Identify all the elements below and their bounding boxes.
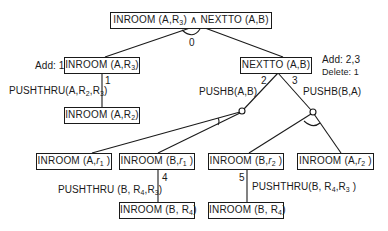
operator-pushb-b-a: PUSHB(B,A)	[303, 86, 361, 98]
node-label: INROOM (B,	[121, 155, 180, 166]
op-text: PUSHTHRU(A,R	[9, 85, 86, 96]
node-label: INROOM (A,R	[65, 109, 131, 120]
edge-number-3: 3	[292, 76, 298, 86]
node-label: INROOM (B, R	[120, 204, 189, 215]
root-label-part-b: ) ∧ NEXTTO (A,B)	[183, 14, 268, 25]
node-label: INROOM (A,	[299, 155, 358, 166]
node-label: INROOM (B,	[210, 155, 269, 166]
and-arc-or2	[304, 121, 320, 126]
edge-or2-a-r2	[314, 114, 341, 153]
node-label-end: )	[135, 109, 139, 120]
edge-root-left	[105, 28, 190, 57]
inroom-b-r2-node: INROOM (B,r2 )	[208, 153, 284, 170]
operator-pushthru-b-4: PUSHTHRU (B, R4,R3)	[58, 184, 162, 196]
node-label: INROOM (B, R	[209, 204, 278, 215]
nextto-a-b-node: NEXTTO (A,B)	[240, 57, 312, 74]
operator-pushthru-b-5: PUSHTHRU(B, R4,R3 )	[252, 181, 356, 193]
node-label-end: )	[282, 204, 286, 215]
or-node-circle-right	[310, 109, 316, 115]
op-text: )	[350, 181, 356, 192]
op-text: ,R	[336, 181, 346, 192]
node-label-end: )	[135, 59, 139, 70]
op-text: ,R	[145, 184, 155, 195]
node-label-end: )	[104, 155, 111, 166]
operator-pushb-a-b: PUSHB(A,B)	[199, 86, 257, 98]
inroom-a-r1-node: INROOM (A,r1 )	[36, 153, 112, 170]
inroom-a-r3-node: INROOM (A,R3)	[64, 57, 140, 74]
edge-number-4: 4	[162, 173, 168, 183]
or-node-circle-left	[239, 108, 245, 114]
delete-annotation-right: Delete: 1	[322, 66, 359, 78]
op-text: PUSHTHRU (B, R	[58, 184, 141, 195]
node-label-end: )	[193, 204, 197, 215]
node-label-end: )	[365, 155, 372, 166]
root-goal-node: INROOM (A,R3) ∧ NEXTTO (A,B)	[110, 12, 272, 29]
inroom-b-r4-node-left: INROOM (B, R4)	[119, 202, 195, 219]
and-arc-label: 0	[189, 38, 195, 48]
op-text: )	[159, 184, 162, 195]
tree-edges	[0, 0, 388, 231]
node-label-end: )	[187, 155, 194, 166]
inroom-a-r2-node: INROOM (A,R2)	[64, 107, 140, 124]
edge-number-5: 5	[239, 173, 245, 183]
edge-number-2: 2	[261, 76, 267, 86]
inroom-b-r4-node-right: INROOM (B, R4)	[208, 202, 284, 219]
node-label: INROOM (A,R	[65, 59, 131, 70]
node-label-end: )	[276, 155, 283, 166]
and-arc-or1	[218, 118, 219, 125]
op-text: PUSHTHRU(B, R	[252, 181, 332, 192]
operator-pushthru-a: PUSHTHRU(A,R2,R3)	[9, 85, 107, 97]
edge-or1-b-r1	[158, 113, 240, 153]
op-text: )	[104, 85, 107, 96]
add-annotation-right: Add: 2,3	[322, 54, 360, 66]
root-label-part-a: INROOM (A,R	[113, 14, 179, 25]
edge-or2-b-r2	[249, 114, 311, 153]
node-label: NEXTTO (A,B)	[242, 59, 310, 70]
op-text: ,R	[90, 85, 100, 96]
edge-root-right	[205, 28, 283, 57]
add-annotation-left: Add: 1	[35, 60, 65, 72]
inroom-b-r1-node: INROOM (B,r1 )	[119, 153, 195, 170]
inroom-a-r2-bottom-node: INROOM (A,r2 )	[297, 153, 374, 170]
node-label: INROOM (A,	[38, 155, 97, 166]
